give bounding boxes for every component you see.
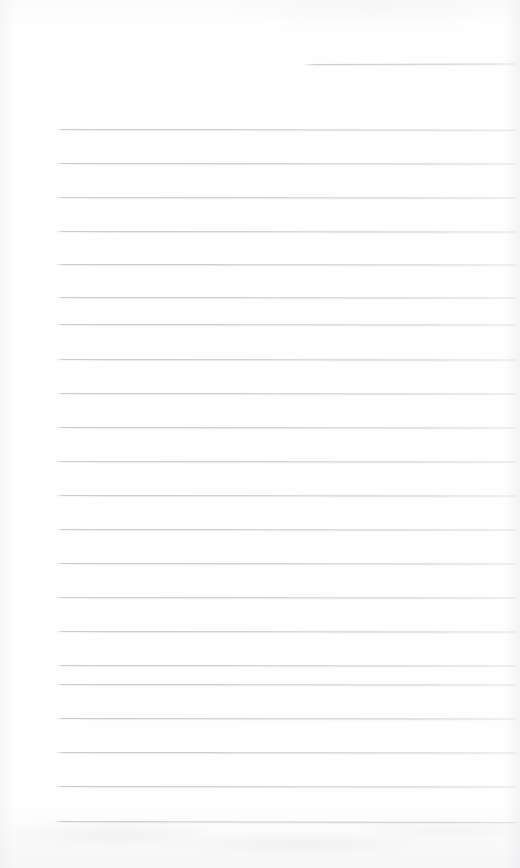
rule-22 bbox=[57, 821, 516, 823]
notepad-page bbox=[0, 0, 520, 868]
rule-21 bbox=[57, 786, 516, 788]
rule-18 bbox=[57, 684, 516, 685]
rule-top-partial bbox=[305, 63, 516, 65]
rule-7 bbox=[57, 324, 516, 326]
rule-20 bbox=[57, 752, 516, 753]
rule-19 bbox=[57, 718, 516, 720]
rule-9 bbox=[57, 393, 516, 395]
rule-5 bbox=[57, 264, 516, 266]
rule-12 bbox=[57, 495, 516, 496]
rule-8 bbox=[57, 359, 516, 360]
rule-17 bbox=[57, 665, 516, 667]
rule-14 bbox=[57, 563, 516, 564]
rule-16 bbox=[57, 631, 516, 632]
rule-11 bbox=[57, 461, 516, 463]
rule-10 bbox=[57, 427, 516, 428]
rule-6 bbox=[57, 297, 516, 298]
rule-2 bbox=[57, 163, 516, 165]
rule-4 bbox=[57, 231, 516, 232]
rule-13 bbox=[57, 529, 516, 531]
rule-15 bbox=[57, 597, 516, 599]
rule-3 bbox=[57, 197, 516, 198]
rule-1 bbox=[57, 129, 516, 131]
